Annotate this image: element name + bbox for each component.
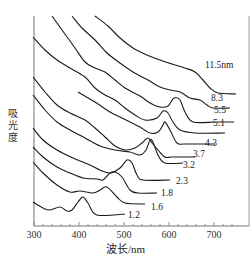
- curve-label: 5.5: [214, 105, 226, 115]
- curve-label: 1.2: [128, 210, 140, 220]
- y-axis-label: 吸光度: [6, 108, 20, 144]
- curve-label: 4.3: [205, 138, 217, 148]
- curve-label: 1.8: [161, 188, 173, 198]
- spectra-curves: [33, 16, 236, 216]
- absorbance-chart: 1.21.61.82.33.23.74.35.15.58.311.5nm 300…: [0, 0, 251, 264]
- x-tick-label: 300: [27, 229, 42, 240]
- curve-label: 2.3: [176, 176, 188, 186]
- spectrum-curve-2-3: [33, 128, 170, 180]
- x-axis-ticks: [34, 222, 232, 226]
- spectrum-curve-1-2: [33, 197, 125, 216]
- curve-label: 3.7: [193, 149, 205, 159]
- curve-label: 1.6: [151, 202, 163, 212]
- spectrum-curve-11-5nm: [95, 16, 236, 94]
- spectrum-curve-4-3: [78, 92, 215, 144]
- curve-label: 8.3: [211, 93, 223, 103]
- x-tick-label: 600: [162, 229, 177, 240]
- x-tick-label: 500: [117, 229, 132, 240]
- spectrum-curve-5-1: [33, 37, 225, 133]
- curve-label: 3.2: [183, 160, 195, 170]
- curve-labels: 1.21.61.82.33.23.74.35.15.58.311.5nm: [128, 60, 234, 220]
- curve-label: 5.1: [213, 118, 225, 128]
- curve-label: 11.5nm: [205, 60, 234, 70]
- x-tick-label: 700: [207, 229, 222, 240]
- x-axis-label: 波长/nm: [0, 240, 251, 256]
- spectrum-curve-1-6: [33, 162, 145, 204]
- spectrum-curve-1-8: [33, 147, 157, 193]
- x-tick-label: 400: [72, 229, 87, 240]
- x-tick-labels: 300400500600700: [27, 229, 222, 240]
